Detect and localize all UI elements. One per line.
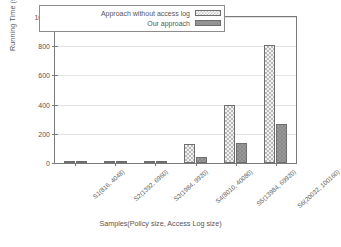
- y-tick-mark-inner: [55, 75, 58, 76]
- x-tick-mark: [236, 163, 237, 166]
- bar: [64, 161, 75, 163]
- x-tick-mark: [276, 163, 277, 166]
- y-axis-title-text: Running Time (sec): [8, 0, 17, 69]
- y-tick-label: 400: [38, 101, 50, 108]
- gridline: [55, 134, 296, 135]
- bar: [76, 161, 87, 163]
- x-tick-mark: [196, 163, 197, 166]
- y-tick-label: 800: [38, 43, 50, 50]
- legend-swatch-series0: [195, 10, 221, 16]
- gridline: [55, 105, 296, 106]
- legend: Approach without access log Our approach: [39, 5, 225, 32]
- x-axis-title: Samples(Policy size, Access Log size): [0, 219, 321, 228]
- bar: [236, 143, 247, 163]
- x-tick-label: S4(8010, 40080): [214, 168, 254, 205]
- plot-area: 02004006008001000: [54, 16, 297, 164]
- bar: [116, 161, 127, 163]
- y-tick-mark-inner: [55, 105, 58, 106]
- y-tick-label: 600: [38, 72, 50, 79]
- x-tick-label: S2(1392, 6960): [132, 168, 169, 202]
- x-tick-label: S6(20032, 100160): [296, 168, 341, 209]
- y-tick-mark-inner: [55, 134, 58, 135]
- y-tick-mark-inner: [55, 163, 58, 164]
- x-tick-label: S3(1984, 9920): [173, 168, 210, 202]
- x-tick-mark: [155, 163, 156, 166]
- legend-item-series1: Our approach: [43, 18, 221, 28]
- gridline: [55, 75, 296, 76]
- y-tick-label: 200: [38, 130, 50, 137]
- bar: [224, 105, 235, 163]
- y-tick-mark-inner: [55, 46, 58, 47]
- bar: [104, 161, 115, 163]
- bar: [184, 144, 195, 163]
- bar: [276, 124, 287, 163]
- legend-swatch-series1: [195, 20, 221, 26]
- gridline: [55, 46, 296, 47]
- bar: [196, 157, 207, 163]
- legend-label-series1: Our approach: [147, 20, 190, 27]
- y-axis-title: Running Time (sec): [8, 0, 22, 69]
- y-tick-label: 0: [46, 160, 50, 167]
- legend-label-series0: Approach without access log: [101, 10, 190, 17]
- bar: [264, 45, 275, 163]
- x-tick-label: S5(13984, 69920): [255, 168, 297, 207]
- x-tick-label: S1(816, 4048): [91, 168, 125, 200]
- x-tick-mark: [75, 163, 76, 166]
- legend-item-series0: Approach without access log: [43, 8, 221, 18]
- bar: [156, 161, 167, 163]
- x-tick-mark: [115, 163, 116, 166]
- bar: [144, 161, 155, 163]
